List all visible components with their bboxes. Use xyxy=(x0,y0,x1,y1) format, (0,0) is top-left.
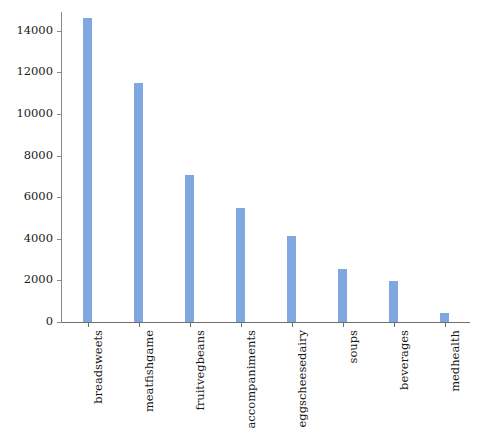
y-tick-mark xyxy=(57,114,61,115)
y-tick-mark xyxy=(57,72,61,73)
x-tick-mark xyxy=(394,323,395,327)
x-tick-mark xyxy=(445,323,446,327)
bar xyxy=(287,236,296,322)
y-tick-label: 10000 xyxy=(0,108,53,120)
y-tick-mark xyxy=(57,322,61,323)
x-tick-label: fruitvegbeans xyxy=(195,330,207,410)
x-axis-spine xyxy=(62,322,470,323)
y-tick-mark xyxy=(57,156,61,157)
y-tick-label: 12000 xyxy=(0,66,53,78)
y-tick-label: 0 xyxy=(0,316,53,328)
x-tick-mark xyxy=(241,323,242,327)
x-tick-mark xyxy=(343,323,344,327)
x-tick-label: eggscheesedairy xyxy=(297,330,309,428)
x-tick-label: meatfishgame xyxy=(144,330,156,412)
y-tick-label: 6000 xyxy=(0,191,53,203)
bar xyxy=(83,18,92,322)
x-tick-label: breadsweets xyxy=(93,330,105,404)
x-tick-mark xyxy=(190,323,191,327)
x-tick-mark xyxy=(88,323,89,327)
bar xyxy=(440,313,449,322)
x-tick-mark xyxy=(139,323,140,327)
y-tick-mark xyxy=(57,31,61,32)
bar-chart-figure: 02000400060008000100001200014000 breadsw… xyxy=(0,0,482,441)
bar xyxy=(236,208,245,322)
y-tick-mark xyxy=(57,280,61,281)
bar xyxy=(185,175,194,322)
bar xyxy=(134,83,143,322)
y-tick-label: 2000 xyxy=(0,274,53,286)
bar xyxy=(338,269,347,322)
y-tick-label: 14000 xyxy=(0,25,53,37)
x-tick-label: beverages xyxy=(399,330,411,390)
y-tick-label: 4000 xyxy=(0,233,53,245)
x-tick-label: medhealth xyxy=(450,330,462,392)
x-tick-mark xyxy=(292,323,293,327)
y-tick-mark xyxy=(57,239,61,240)
x-tick-label: accompaniments xyxy=(246,330,258,429)
y-tick-label: 8000 xyxy=(0,150,53,162)
y-axis-spine xyxy=(61,12,62,323)
y-tick-mark xyxy=(57,197,61,198)
x-tick-label: soups xyxy=(348,330,360,364)
bar xyxy=(389,281,398,322)
